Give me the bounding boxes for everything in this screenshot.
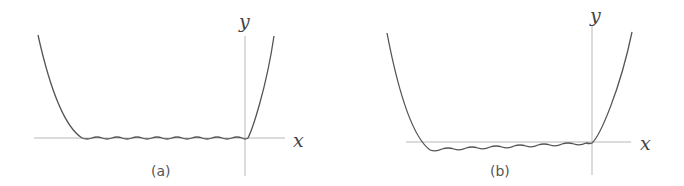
figure-canvas: y x (a) y x (b): [0, 0, 684, 186]
curve-b: [387, 32, 632, 151]
x-label-a: x: [293, 129, 304, 151]
x-label-b: x: [640, 132, 651, 154]
y-label-a: y: [238, 10, 250, 32]
panel-a: y x (a): [34, 10, 304, 179]
caption-b: (b): [490, 163, 510, 179]
y-label-b: y: [589, 4, 601, 26]
panel-b: y x (b): [387, 4, 651, 179]
caption-a: (a): [151, 163, 171, 179]
curve-a: [38, 35, 274, 139]
